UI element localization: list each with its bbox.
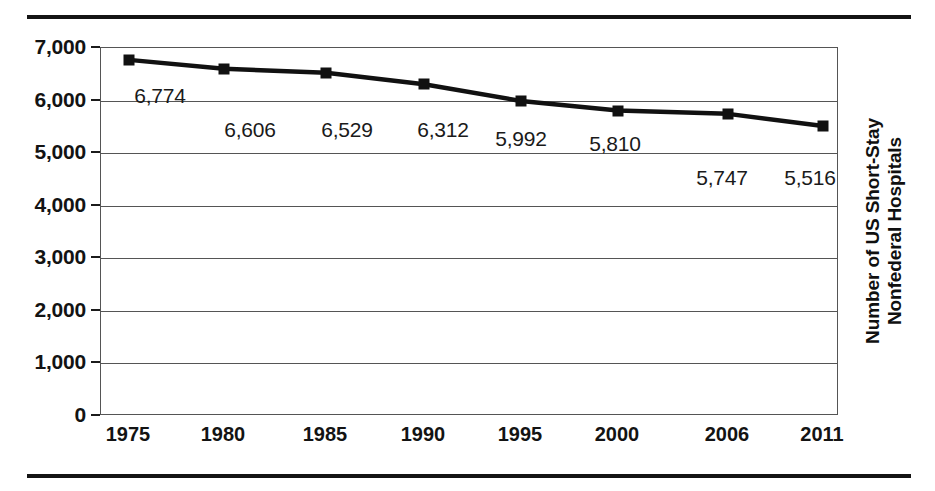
y-axis-tick-label: 5,000 — [34, 141, 86, 162]
y-axis-tick-label: 6,000 — [34, 89, 86, 110]
data-marker — [321, 67, 332, 78]
x-axis-tick-label: 1995 — [498, 424, 543, 444]
data-marker — [613, 105, 624, 116]
data-point-label: 6,529 — [321, 119, 373, 140]
data-marker — [219, 63, 230, 74]
data-marker — [723, 108, 734, 119]
data-marker — [124, 54, 135, 65]
data-point-label: 5,992 — [495, 128, 547, 149]
top-divider-rule — [27, 15, 911, 19]
y-axis-tick-label: 7,000 — [34, 36, 86, 57]
y-axis-tick-mark — [91, 99, 100, 101]
y-axis-title: Number of US Short-Stay Nonfederal Hospi… — [845, 47, 923, 415]
series-polyline — [101, 48, 839, 416]
data-point-label: 5,516 — [784, 167, 836, 188]
data-marker — [818, 121, 829, 132]
data-point-label: 5,810 — [589, 133, 641, 154]
y-axis-tick-mark — [91, 151, 100, 153]
plot-area — [100, 47, 838, 415]
x-axis-tick-label: 2011 — [800, 424, 843, 444]
y-axis-tick-label: 0 — [75, 404, 86, 425]
x-axis-tick-label: 1990 — [401, 424, 446, 444]
y-axis-tick-label: 4,000 — [34, 194, 86, 215]
y-axis-tick-label: 1,000 — [34, 351, 86, 372]
y-axis-title-line-1: Number of US Short-Stay — [862, 118, 884, 344]
y-axis-tick-mark — [91, 256, 100, 258]
bottom-divider-rule — [27, 474, 911, 478]
y-axis-tick-mark — [91, 46, 100, 48]
x-axis-tick-label: 2006 — [705, 424, 750, 444]
data-marker — [419, 79, 430, 90]
y-axis-tick-label: 3,000 — [34, 246, 86, 267]
figure-container: 01,0002,0003,0004,0005,0006,0007,000 6,7… — [0, 0, 935, 491]
x-axis-tick-label: 1985 — [303, 424, 348, 444]
y-axis-tick-mark — [91, 204, 100, 206]
y-axis-tick-mark — [91, 309, 100, 311]
x-axis-tick-label: 2000 — [595, 424, 640, 444]
data-point-label: 6,774 — [134, 85, 186, 106]
y-axis-tick-mark — [91, 414, 100, 416]
data-point-label: 5,747 — [696, 167, 748, 188]
data-point-label: 6,606 — [224, 119, 276, 140]
data-point-label: 6,312 — [417, 119, 469, 140]
data-marker — [516, 95, 527, 106]
x-axis-tick-label: 1980 — [201, 424, 246, 444]
y-axis-tick-label: 2,000 — [34, 299, 86, 320]
y-axis-title-line-2: Nonfederal Hospitals — [884, 118, 906, 344]
x-axis-tick-label: 1975 — [106, 424, 151, 444]
y-axis-tick-mark — [91, 361, 100, 363]
